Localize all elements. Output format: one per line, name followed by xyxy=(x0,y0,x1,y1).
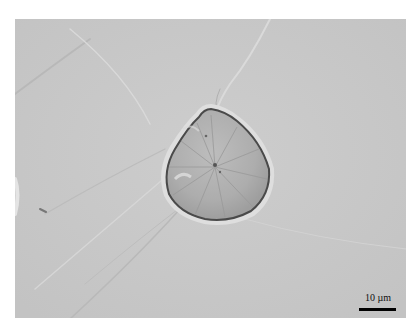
micrograph-frame: 10 µm xyxy=(15,19,406,318)
scale-bar xyxy=(359,308,396,311)
micrograph-image xyxy=(15,19,406,318)
scale-bar-label: 10 µm xyxy=(360,293,396,303)
